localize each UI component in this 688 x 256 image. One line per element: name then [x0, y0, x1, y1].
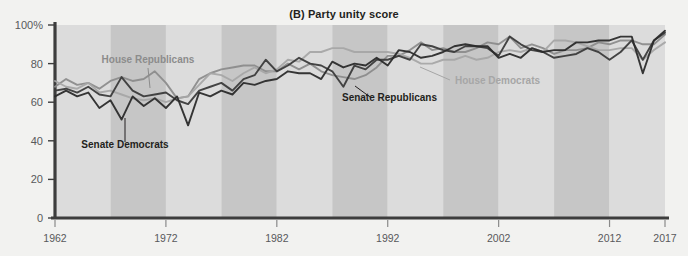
y-axis-tick-label: 0	[37, 212, 43, 224]
plot-band	[221, 25, 276, 218]
plot-band	[277, 25, 332, 218]
x-axis-tick-label: 2012	[598, 232, 622, 244]
y-axis-tick-label: 60	[31, 96, 43, 108]
chart-container: (B) Party unity score 020406080100%19621…	[0, 0, 688, 256]
party-unity-line-chart: 020406080100%196219721982199220022012201…	[0, 0, 688, 256]
plot-band	[443, 25, 498, 218]
x-axis-tick-label: 1992	[376, 232, 400, 244]
x-axis-tick-label: 1962	[43, 232, 67, 244]
plot-band	[332, 25, 387, 218]
y-axis-tick-label: 20	[31, 173, 43, 185]
series-label-house-democrats: House Democrats	[455, 75, 540, 86]
x-axis-tick-label: 1972	[154, 232, 178, 244]
x-axis-tick-label: 2017	[653, 232, 677, 244]
y-axis-tick-label: 40	[31, 135, 43, 147]
y-axis-tick-label: 80	[31, 58, 43, 70]
y-axis-tick-label: 100%	[15, 19, 43, 31]
x-axis-tick-label: 1982	[265, 232, 289, 244]
series-label-senate-democrats: Senate Democrats	[81, 139, 169, 150]
series-label-house-republicans: House Republicans	[102, 54, 195, 65]
series-label-senate-republicans: Senate Republicans	[342, 92, 437, 103]
x-axis-tick-label: 2002	[487, 232, 511, 244]
